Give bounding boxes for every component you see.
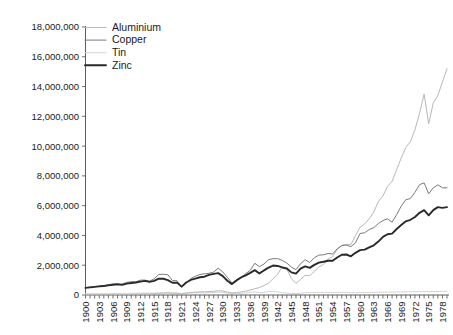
x-tick-label: 1924: [190, 302, 201, 323]
x-tick-label: 1954: [327, 302, 338, 323]
y-tick-label: 0: [74, 289, 79, 300]
y-tick-label: 10,000,000: [31, 141, 79, 152]
x-tick-label: 1942: [272, 302, 283, 323]
x-tick-label: 1957: [341, 302, 352, 323]
x-tick-label: 1930: [217, 302, 228, 323]
chart-canvas: 18,000,00016,000,00014,000,00012,000,000…: [0, 0, 453, 335]
x-tick-label: 1900: [80, 302, 91, 323]
x-tick-label: 1975: [423, 302, 434, 323]
legend-label-aluminium: Aluminium: [112, 21, 161, 33]
y-tick-label: 12,000,000: [31, 111, 79, 122]
series-lines: [86, 69, 448, 295]
series-line-copper: [86, 183, 448, 288]
x-tick-label: 1951: [313, 302, 324, 323]
legend-label-copper: Copper: [112, 33, 147, 45]
y-axis: 18,000,00016,000,00014,000,00012,000,000…: [31, 21, 85, 300]
x-tick-label: 1966: [382, 302, 393, 323]
x-tick-label: 1936: [245, 302, 256, 323]
series-line-tin: [86, 291, 448, 293]
x-tick-label: 1969: [396, 302, 407, 323]
line-chart: 18,000,00016,000,00014,000,00012,000,000…: [0, 0, 453, 335]
x-tick-label: 1933: [231, 302, 242, 323]
chart-legend: AluminiumCopperTinZinc: [85, 21, 161, 71]
x-tick-label: 1903: [94, 302, 105, 323]
y-tick-label: 6,000,000: [37, 200, 79, 211]
x-tick-label: 1945: [286, 302, 297, 323]
x-tick-label: 1978: [437, 302, 448, 323]
y-tick-label: 4,000,000: [37, 230, 79, 241]
x-tick-label: 1918: [162, 302, 173, 323]
y-tick-label: 2,000,000: [37, 260, 79, 271]
x-tick-label: 1912: [135, 302, 146, 323]
y-tick-label: 18,000,000: [31, 21, 79, 32]
x-tick-label: 1915: [149, 302, 160, 323]
x-tick-label: 1927: [204, 302, 215, 323]
x-tick-label: 1960: [355, 302, 366, 323]
x-tick-label: 1906: [108, 302, 119, 323]
x-tick-label: 1939: [259, 302, 270, 323]
x-tick-label: 1909: [121, 302, 132, 323]
x-axis: 1900190319061909191219151918192119241927…: [80, 295, 449, 323]
series-line-aluminium: [86, 69, 448, 295]
y-tick-label: 14,000,000: [31, 81, 79, 92]
x-tick-label: 1972: [410, 302, 421, 323]
x-tick-label: 1963: [368, 302, 379, 323]
series-line-zinc: [86, 207, 448, 288]
x-tick-label: 1948: [300, 302, 311, 323]
x-tick-label: 1921: [176, 302, 187, 323]
legend-label-tin: Tin: [112, 46, 126, 58]
legend-label-zinc: Zinc: [112, 59, 132, 71]
y-tick-label: 16,000,000: [31, 51, 79, 62]
y-tick-label: 8,000,000: [37, 170, 79, 181]
